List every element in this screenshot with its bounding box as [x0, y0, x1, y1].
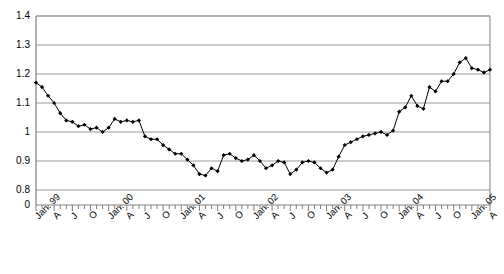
- y-axis-tick-label: 0: [0, 200, 30, 210]
- y-axis-tick-label: 1.4: [0, 11, 30, 21]
- series-line: [36, 58, 490, 175]
- plot-border: [36, 16, 490, 205]
- y-axis-tick-label: 0.9: [0, 156, 30, 166]
- chart-container: 1.41.31.21.110.90.80 Jan. 99AJOJan. 00AJ…: [0, 0, 504, 274]
- y-axis-tick-label: 1.1: [0, 98, 30, 108]
- y-axis-tick-label: 1.3: [0, 40, 30, 50]
- y-axis-tick-label: 0.8: [0, 185, 30, 195]
- y-axis-tick-label: 1: [0, 127, 30, 137]
- y-axis-tick-label: 1.2: [0, 69, 30, 79]
- line-chart-svg: [0, 0, 504, 274]
